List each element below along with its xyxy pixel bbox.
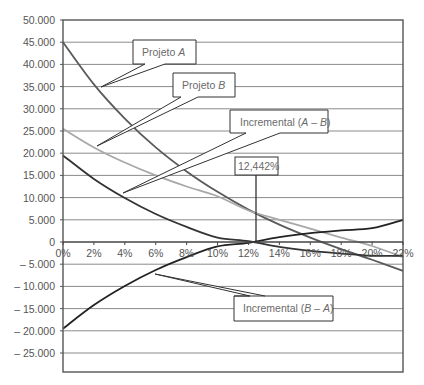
y-tick-label: – 5.000: [20, 258, 55, 270]
callout-projeto-a-label: Projeto A: [142, 46, 185, 58]
y-tick-label: 50.000: [23, 14, 55, 26]
npv-chart: 50.00045.00040.00035.00030.00025.00020.0…: [0, 0, 424, 385]
irr-label: 12,442%: [238, 160, 279, 172]
x-tick-label: 20%: [362, 247, 383, 259]
y-tick-label: 20.000: [23, 147, 55, 159]
y-tick-label: 40.000: [23, 58, 55, 70]
y-tick-label: 25.000: [23, 125, 55, 137]
x-tick-label: 0%: [55, 247, 70, 259]
callout-incremental-a-b-label: Incremental (A – B): [240, 116, 331, 128]
x-tick-label: 2%: [86, 247, 101, 259]
x-tick-label: 22%: [392, 247, 413, 259]
y-tick-label: 45.000: [23, 36, 55, 48]
x-tick-label: 10%: [207, 247, 228, 259]
y-tick-label: 30.000: [23, 103, 55, 115]
y-tick-label: 35.000: [23, 81, 55, 93]
x-tick-label: 12%: [238, 247, 259, 259]
callout-incremental-b-a-label: Incremental (B – A): [243, 302, 334, 314]
y-tick-label: 15.000: [23, 169, 55, 181]
y-axis-labels: 50.00045.00040.00035.00030.00025.00020.0…: [14, 14, 63, 359]
y-tick-label: – 25.000: [14, 347, 55, 359]
x-tick-label: 6%: [148, 247, 163, 259]
series-incremental-b-a: [63, 220, 403, 329]
y-tick-label: 10.000: [23, 192, 55, 204]
x-tick-label: 16%: [300, 247, 321, 259]
callout-irr-crossover: 12,442%: [235, 157, 279, 242]
callout-incremental-b-a: Incremental (B – A): [155, 274, 334, 321]
x-tick-label: 14%: [269, 247, 290, 259]
y-tick-label: 5.000: [29, 214, 55, 226]
callout-projeto-b: Projeto B: [97, 73, 235, 146]
y-tick-label: – 20.000: [14, 325, 55, 337]
callout-incremental-a-b: Incremental (A – B): [123, 110, 331, 193]
callout-projeto-b-label: Projeto B: [182, 79, 225, 91]
x-tick-label: 4%: [117, 247, 132, 259]
y-tick-label: – 10.000: [14, 280, 55, 292]
y-tick-label: 0: [49, 236, 55, 248]
y-tick-label: – 15.000: [14, 303, 55, 315]
x-tick-label: 18%: [331, 247, 352, 259]
x-tick-label: 8%: [179, 247, 194, 259]
